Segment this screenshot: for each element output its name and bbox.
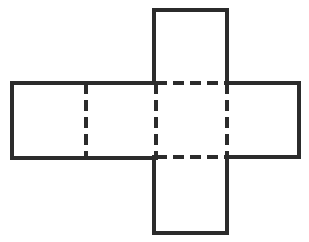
cuboid-net-figure: [0, 0, 309, 242]
net-diagram-canvas: [0, 0, 309, 242]
